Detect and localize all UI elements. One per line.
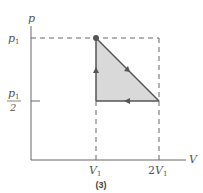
tick-label-v1: V1 <box>89 164 101 178</box>
vertex-dot <box>93 35 99 41</box>
tick-label-p1-half-numerator: p1 <box>8 87 20 101</box>
tick-label-p1-half-denominator: 2 <box>9 102 16 113</box>
figure-caption: (3) <box>96 180 107 190</box>
tick-label-2v1: 2V1 <box>148 164 167 178</box>
y-axis-label: p <box>28 12 35 25</box>
x-axis-label: V <box>189 153 198 166</box>
tick-label-p1: p1 <box>8 32 20 46</box>
pv-diagram: p V p1 p1 2 V1 2V1 (3) <box>0 0 203 193</box>
